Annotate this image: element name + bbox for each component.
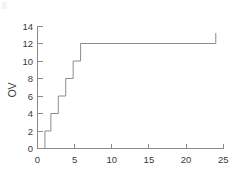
step-chart: 0 2 4 6 8 10 12 14 0 5 10 15 20 25 OV [0,0,234,174]
y-axis-title: OV [6,82,18,97]
x-tick-marks [38,144,224,149]
chart-container: 0 2 4 6 8 10 12 14 0 5 10 15 20 25 OV [0,0,234,174]
y-tick-label-0: 0 [28,143,33,154]
x-tick-label-15: 15 [144,154,155,165]
y-tick-marks [38,26,43,149]
y-tick-label-2: 2 [28,126,33,137]
y-tick-label-12: 12 [22,38,33,49]
x-tick-label-5: 5 [72,154,77,165]
y-tick-label-8: 8 [28,73,33,84]
x-tick-label-25: 25 [218,154,229,165]
x-tick-label-10: 10 [107,154,118,165]
y-tick-label-6: 6 [28,91,33,102]
x-tick-label-0: 0 [35,154,40,165]
y-tick-label-4: 4 [28,108,33,119]
x-tick-label-20: 20 [181,154,192,165]
data-series-ov [45,44,216,149]
y-tick-label-14: 14 [22,21,33,32]
y-tick-label-10: 10 [22,56,33,67]
